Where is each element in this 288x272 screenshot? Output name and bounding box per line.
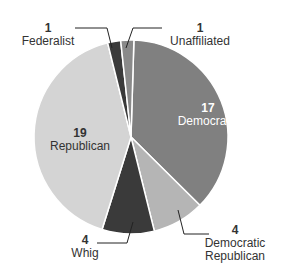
label-federalist: 1 Federalist [8, 22, 88, 48]
name-federalist: Federalist [22, 34, 75, 48]
name-unaffiliated: Unaffiliated [170, 34, 230, 48]
name-democratic-republican-1: Democratic [205, 236, 266, 250]
label-unaffiliated: 1 Unaffiliated [155, 22, 245, 48]
label-democratic-republican: 4 Democratic Republican [195, 224, 275, 263]
name-whig: Whig [71, 246, 98, 260]
name-republican: Republican [50, 139, 110, 153]
label-democratic: 17 Democratic [168, 102, 248, 128]
name-democratic-republican-2: Republican [205, 249, 265, 263]
name-democratic: Democratic [178, 114, 239, 128]
label-republican: 19 Republican [40, 127, 120, 153]
label-whig: 4 Whig [60, 234, 110, 260]
